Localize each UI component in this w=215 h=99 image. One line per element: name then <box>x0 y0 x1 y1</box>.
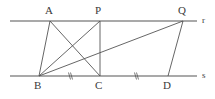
point-label-c: C <box>95 80 102 91</box>
point-label-d: D <box>163 80 171 91</box>
construction-segments <box>39 21 183 76</box>
point-label-a: A <box>45 5 53 16</box>
segment-ac <box>50 21 100 76</box>
parallel-lines <box>10 21 197 76</box>
point-label-b: B <box>34 80 41 91</box>
point-label-p: P <box>95 5 101 16</box>
point-label-q: Q <box>178 5 186 16</box>
segment-bq <box>39 21 183 76</box>
line-label-s: s <box>202 71 206 80</box>
segment-qd <box>168 21 183 76</box>
geometry-figure: A P Q B C D r s <box>0 0 215 99</box>
line-label-r: r <box>202 16 205 25</box>
